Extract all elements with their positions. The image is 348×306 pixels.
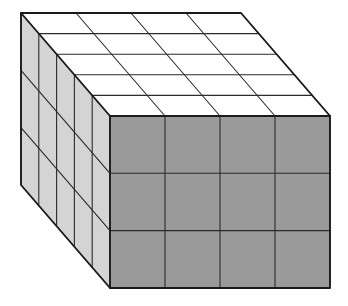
cuboid-illustration: Rectangular prism built from unit cubes <box>0 0 348 306</box>
figure-root: Rectangular prism built from unit cubes <box>0 0 348 306</box>
